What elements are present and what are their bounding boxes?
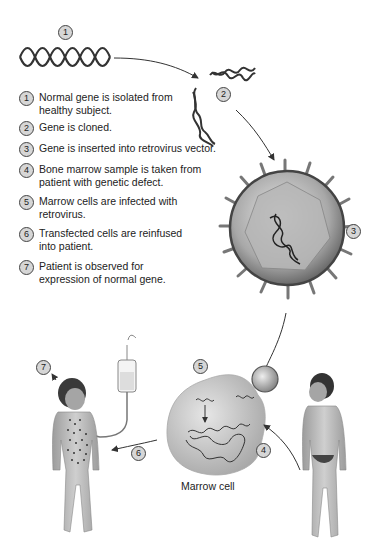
step-text: Marrow cells are infected with retroviru… (39, 195, 179, 220)
step-text: Gene is cloned. (39, 121, 209, 134)
step-text: Transfected cells are reinfused into pat… (39, 227, 189, 252)
marrow-cell-icon (167, 366, 278, 475)
patient-figure (303, 373, 346, 537)
arrow-2-to-3 (236, 110, 274, 160)
gene-therapy-diagram: 1 2 3 4 5 6 7 1 Normal gene is isolated … (0, 0, 371, 556)
normal-gene-dna-icon (20, 48, 110, 66)
step-number: 3 (19, 142, 34, 157)
marker-4: 4 (256, 443, 271, 458)
marker-5: 5 (193, 359, 208, 374)
marker-2: 2 (216, 87, 231, 102)
marker-6: 6 (131, 446, 146, 461)
step-text: Gene is inserted into retrovirus vector. (39, 142, 239, 155)
step-number: 7 (19, 260, 34, 275)
step-number: 4 (19, 163, 34, 178)
step-number: 5 (19, 195, 34, 210)
step-number: 6 (19, 227, 34, 242)
step-text: Patient is observed for expression of no… (39, 260, 179, 285)
step-number: 2 (19, 121, 34, 136)
treated-patient-figure (52, 374, 99, 532)
step-text: Normal gene is isolated from healthy sub… (39, 91, 209, 116)
iv-bag-icon (88, 335, 136, 437)
marker-1: 1 (58, 25, 73, 40)
marker-3: 3 (346, 224, 361, 239)
step-text: Bone marrow sample is taken from patient… (39, 163, 219, 188)
marrow-cell-label: Marrow cell (181, 480, 235, 492)
retrovirus-icon (220, 160, 355, 298)
step-number: 1 (19, 91, 34, 106)
marker-7: 7 (36, 360, 51, 375)
arrow-1-to-2 (114, 58, 198, 78)
